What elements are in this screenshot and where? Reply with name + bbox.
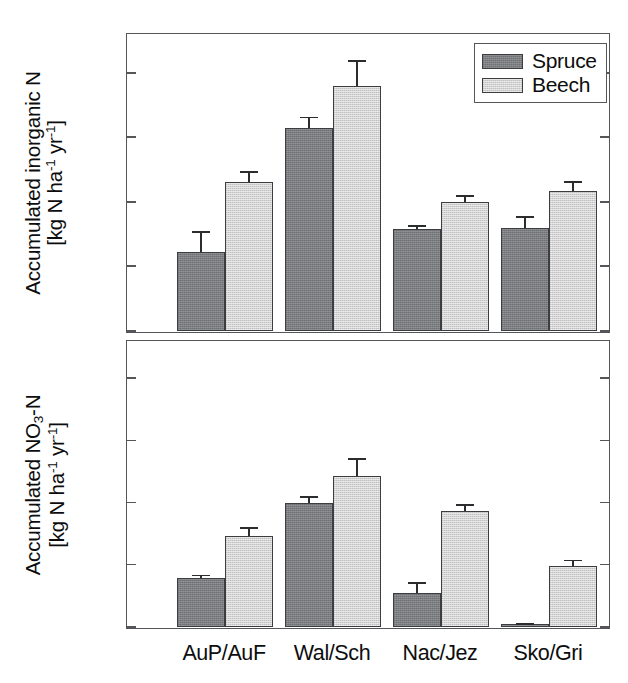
bar-bottom-sko-gri-beech (549, 566, 597, 627)
error-bar-bottom-aup-auf-beech (225, 527, 273, 536)
y-tick-right-bottom-150 (600, 440, 609, 442)
error-bar-bottom-nac-jez-beech (441, 504, 489, 511)
error-bar-top-aup-auf-spruce (177, 231, 225, 252)
legend-entry-beech: Beech (482, 73, 597, 97)
y-tick-top-100 (127, 201, 136, 203)
error-bar-cap (300, 496, 318, 498)
bar-top-wal-sch-beech (333, 86, 381, 331)
error-bar-bottom-sko-gri-spruce (501, 623, 549, 625)
y-tick-bottom-100 (127, 502, 136, 504)
bar-top-aup-auf-spruce (177, 252, 225, 331)
legend-label-spruce: Spruce (532, 49, 597, 73)
error-bar-cap (240, 171, 258, 173)
error-bar-cap (408, 225, 426, 227)
error-bar-cap (192, 575, 210, 577)
bar-bottom-wal-sch-beech (333, 476, 381, 626)
y-tick-bottom-200 (127, 377, 136, 379)
error-bar-top-nac-jez-beech (441, 195, 489, 201)
y-tick-top-0 (127, 330, 136, 332)
bar-top-sko-gri-spruce (501, 228, 549, 331)
error-bar-stem (356, 60, 358, 86)
error-bar-cap (240, 527, 258, 529)
y-tick-right-top-50 (600, 265, 609, 267)
y-tick-top-150 (127, 136, 136, 138)
y-tick-top-50 (127, 265, 136, 267)
y-tick-right-bottom-100 (600, 502, 609, 504)
bar-top-nac-jez-spruce (393, 229, 441, 331)
y-tick-top-200 (127, 72, 136, 74)
error-bar-top-sko-gri-spruce (501, 216, 549, 228)
error-bar-cap (348, 60, 366, 62)
y-axis-title-bottom-line2: [kg N ha-1 yr-1] (46, 335, 68, 635)
bar-bottom-nac-jez-spruce (393, 593, 441, 627)
bar-top-wal-sch-spruce (285, 128, 333, 331)
error-bar-cap (348, 458, 366, 460)
error-bar-cap (300, 117, 318, 119)
bar-bottom-aup-auf-beech (225, 536, 273, 627)
error-bar-top-nac-jez-spruce (393, 225, 441, 229)
error-bar-bottom-sko-gri-beech (549, 560, 597, 566)
legend-label-beech: Beech (532, 73, 590, 97)
error-bar-cap (564, 560, 582, 562)
y-tick-bottom-150 (127, 440, 136, 442)
error-bar-cap (516, 623, 534, 625)
error-bar-cap (192, 231, 210, 233)
error-bar-bottom-aup-auf-spruce (177, 575, 225, 579)
legend-entry-spruce: Spruce (482, 49, 597, 73)
chart-panel-bottom: 050100150200 (126, 340, 610, 629)
y-tick-bottom-50 (127, 564, 136, 566)
error-bar-top-wal-sch-spruce (285, 117, 333, 129)
y-tick-bottom-0 (127, 626, 136, 628)
y-axis-title-bottom: Accumulated NO3-N [kg N ha-1 yr-1] (22, 335, 74, 635)
bar-top-aup-auf-beech (225, 182, 273, 330)
y-axis-title-top-line2: [kg N ha-1 yr-1] (44, 33, 66, 333)
error-bar-top-sko-gri-beech (549, 181, 597, 191)
y-axis-title-bottom-line1: Accumulated NO3-N (21, 394, 44, 575)
y-tick-right-top-150 (600, 136, 609, 138)
bar-bottom-wal-sch-spruce (285, 503, 333, 627)
beech-swatch-icon (482, 78, 523, 93)
figure-root: 050100150200 Spruce Beech Accumulated in… (0, 0, 628, 683)
error-bar-top-wal-sch-beech (333, 60, 381, 86)
error-bar-stem (356, 458, 358, 477)
y-axis-title-top-line1: Accumulated inorganic N (21, 71, 44, 294)
y-tick-right-top-0 (600, 330, 609, 332)
error-bar-bottom-wal-sch-spruce (285, 496, 333, 502)
error-bar-bottom-nac-jez-spruce (393, 582, 441, 593)
error-bar-cap (456, 504, 474, 506)
error-bar-bottom-wal-sch-beech (333, 458, 381, 477)
y-tick-right-bottom-0 (600, 626, 609, 628)
y-axis-title-top: Accumulated inorganic N [kg N ha-1 yr-1] (22, 33, 74, 333)
bar-bottom-nac-jez-beech (441, 511, 489, 627)
bar-bottom-aup-auf-spruce (177, 578, 225, 626)
y-tick-right-top-100 (600, 201, 609, 203)
error-bar-cap (516, 216, 534, 218)
error-bar-cap (408, 582, 426, 584)
error-bar-cap (456, 195, 474, 197)
y-tick-right-bottom-50 (600, 564, 609, 566)
error-bar-cap (564, 181, 582, 183)
plot-area-bottom: 050100150200 (127, 341, 609, 628)
spruce-swatch-icon (482, 54, 523, 69)
x-tick-label-sko-gri: Sko/Gri (478, 641, 618, 666)
bar-top-sko-gri-beech (549, 191, 597, 330)
error-bar-top-aup-auf-beech (225, 171, 273, 183)
chart-panel-top: 050100150200 Spruce Beech (126, 33, 610, 333)
bar-top-nac-jez-beech (441, 202, 489, 331)
error-bar-stem (200, 231, 202, 252)
legend: Spruce Beech (474, 43, 607, 103)
y-tick-right-bottom-200 (600, 377, 609, 379)
